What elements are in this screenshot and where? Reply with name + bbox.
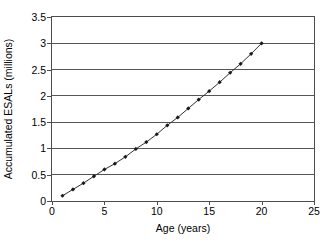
plot-canvas [52, 17, 314, 201]
y-tick-label: 2.5 [6, 64, 46, 75]
x-tick-mark [104, 201, 105, 205]
x-tick-mark [157, 201, 158, 205]
x-tick-mark [314, 201, 315, 205]
x-tick-mark [262, 201, 263, 205]
x-tick-label: 25 [294, 205, 329, 217]
x-tick-label: 0 [32, 205, 72, 217]
x-tick-label: 5 [84, 205, 124, 217]
y-tick-label: 3.5 [6, 12, 46, 23]
x-tick-label: 20 [242, 205, 282, 217]
x-tick-label: 15 [189, 205, 229, 217]
x-tick-label: 10 [137, 205, 177, 217]
x-tick-mark [209, 201, 210, 205]
y-tick-label: 1.5 [6, 117, 46, 128]
data-point-marker [71, 187, 75, 191]
chart-figure: Accumulated ESALs (millions) 00.511.522.… [0, 0, 329, 242]
x-tick-mark [52, 201, 53, 205]
y-tick-label: 3 [6, 38, 46, 49]
gridlines [52, 43, 314, 174]
x-axis-title: Age (years) [51, 222, 315, 234]
y-tick-label: 2 [6, 90, 46, 101]
data-point-marker [60, 194, 64, 198]
series-line [62, 43, 261, 195]
plot-area [51, 16, 315, 202]
y-tick-label: 0.5 [6, 169, 46, 180]
y-tick-label: 1 [6, 143, 46, 154]
